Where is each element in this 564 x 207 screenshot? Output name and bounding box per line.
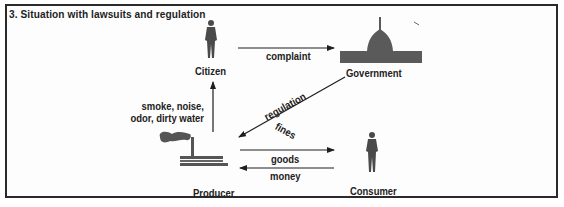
pollution-label-line-1: smoke, noise, xyxy=(105,100,204,112)
consumer-label: Consumer xyxy=(350,185,397,197)
pollution-label-line-2: odor, dirty water xyxy=(105,112,204,124)
consumer-person-icon xyxy=(366,132,378,172)
government-label: Government xyxy=(346,67,402,79)
producer-label: Producer xyxy=(193,187,234,199)
complaint-label: complaint xyxy=(266,50,311,62)
money-label: money xyxy=(270,170,300,182)
government-capitol-icon xyxy=(340,17,422,63)
goods-label: goods xyxy=(271,153,299,165)
stray-mark xyxy=(414,22,419,25)
pollution-label: smoke, noise, odor, dirty water xyxy=(105,100,204,124)
citizen-label: Citizen xyxy=(195,65,226,77)
citizen-person-icon xyxy=(205,20,217,58)
producer-factory-icon xyxy=(160,132,228,166)
